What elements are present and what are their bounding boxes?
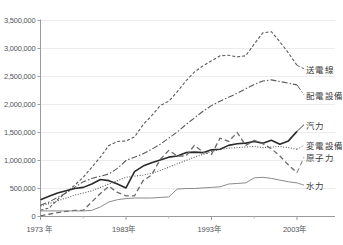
series-label-変電設備: 変電設備	[306, 139, 343, 151]
y-tick-label: 3,000,000	[4, 44, 36, 53]
leader-line-4	[297, 157, 304, 173]
series-line-2	[41, 131, 298, 199]
y-tick-label: 500,000	[10, 184, 36, 193]
y-tick-label: 2,500,000	[4, 72, 36, 81]
leader-line-0	[297, 65, 304, 68]
series-line-5	[41, 177, 298, 211]
series-label-原子力: 原子力	[306, 151, 334, 163]
series-label-送電線: 送電線	[306, 63, 334, 75]
series-label-汽力: 汽力	[306, 119, 325, 131]
y-tick-label: 1,500,000	[4, 128, 36, 137]
leader-line-2	[297, 125, 304, 132]
y-tick-label: 2,000,000	[4, 100, 36, 109]
x-tick-label: 1983年	[112, 223, 135, 234]
leader-line-1	[297, 85, 304, 95]
leader-line-5	[297, 183, 304, 185]
series-line-4	[41, 133, 298, 216]
x-tick-label: 1973 年	[27, 223, 52, 234]
series-label-水力: 水力	[306, 179, 325, 191]
y-tick-label: 3,500,000	[4, 16, 36, 25]
series-label-配電設備: 配電設備	[306, 89, 343, 101]
label-leader-lines	[297, 65, 304, 185]
y-tick-label: 1,000,000	[4, 156, 36, 165]
axis-ticks	[38, 21, 298, 221]
series-line-0	[41, 32, 298, 211]
y-tick-label: 0	[32, 212, 36, 221]
x-tick-label: 2003年	[283, 223, 306, 234]
gridlines	[41, 21, 336, 189]
x-tick-label: 1993年	[198, 223, 221, 234]
leader-line-3	[297, 145, 304, 149]
